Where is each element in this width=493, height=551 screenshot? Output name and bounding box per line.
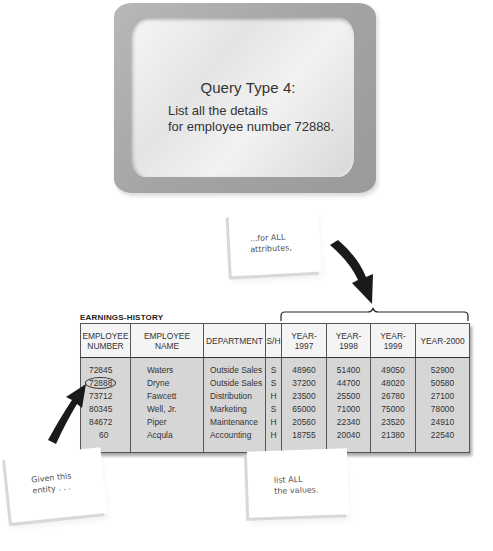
column-year-1997: 48960 37200 23500 65000 20560 18755 [282,358,327,453]
header-year-2000: YEAR-2000 [416,324,470,358]
table-header-row: EMPLOYEENUMBER EMPLOYEE NAME DEPARTMENT … [81,324,470,358]
note-list-all-values: list ALL the values. [247,448,349,517]
query-line-1: List all the details [168,103,334,119]
monitor-screen: Query Type 4: List all the details for e… [130,17,354,177]
header-department: DEPARTMENT [204,324,266,358]
header-year-1998: YEAR-1998 [327,324,371,358]
query-title: Query Type 4: [136,79,360,96]
highlighted-entity: 72888 [85,377,116,389]
query-line-2: for employee number 72888. [168,119,334,135]
column-year-2000: 52900 50580 27100 78000 24910 22540 [416,358,470,453]
arrow-down-icon [330,240,373,304]
table-caption: EARNINGS-HISTORY [80,313,163,322]
header-year-1999: YEAR-1999 [371,324,416,358]
note-given-this-entity: Given this entity . . . [5,447,107,523]
header-year-1997: YEAR-1997 [282,324,327,358]
column-year-1999: 49050 48020 26780 75000 23520 21380 [371,358,416,453]
header-sh: S/H [266,324,282,358]
column-employee-name: Waters Dryne Fawcett Well, Jr. Piper Acq… [131,358,204,453]
column-year-1998: 51400 44700 25500 71000 22340 20040 [327,358,371,453]
header-employee-number: EMPLOYEENUMBER [81,324,131,358]
note-top-line-2: attributes, [250,242,292,255]
query-description: List all the details for employee number… [168,103,334,135]
note-bottom-line-2: the values. [274,484,319,497]
column-employee-number: 72845 72888 73712 80345 84672 60 [81,358,131,453]
earnings-history-table: EMPLOYEENUMBER EMPLOYEE NAME DEPARTMENT … [80,323,469,453]
monitor-illustration: Query Type 4: List all the details for e… [114,3,376,193]
header-employee-name: EMPLOYEE NAME [131,324,204,358]
note-for-all-attributes: ...for ALL attributes, [228,210,321,277]
table-body: 72845 72888 73712 80345 84672 60 Waters … [81,358,470,453]
curly-brace-icon [281,308,468,321]
column-department: Outside Sales Outside Sales Distribution… [204,358,266,453]
column-sh: S S H S H H [266,358,282,453]
